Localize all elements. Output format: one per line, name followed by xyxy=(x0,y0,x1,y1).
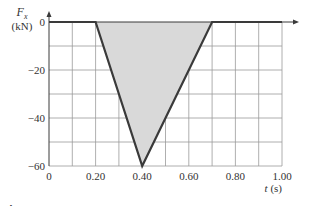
x-tick-labels: 00.200.400.600.801.00 xyxy=(46,170,292,182)
x-tick-label: 0.80 xyxy=(226,170,246,182)
x-axis-label: t (s) xyxy=(265,182,283,195)
x-tick-label: 0.20 xyxy=(86,170,106,182)
y-tick-label: −40 xyxy=(28,112,46,124)
force-time-chart: 0−20−40−60 00.200.400.600.801.00 Fx (kN)… xyxy=(0,0,309,206)
y-tick-label: −20 xyxy=(28,64,46,76)
y-tick-label: −60 xyxy=(28,160,46,172)
x-tick-label: 1.00 xyxy=(272,170,292,182)
figure-caption: Figure 7.7 xyxy=(2,203,54,206)
x-tick-label: 0.60 xyxy=(179,170,199,182)
x-tick-label: 0 xyxy=(46,170,52,182)
x-tick-label: 0.40 xyxy=(133,170,153,182)
y-axis-unit: (kN) xyxy=(12,20,33,33)
y-tick-label: 0 xyxy=(40,16,46,28)
y-tick-labels: 0−20−40−60 xyxy=(28,16,46,172)
y-axis-label: Fx xyxy=(16,5,28,21)
